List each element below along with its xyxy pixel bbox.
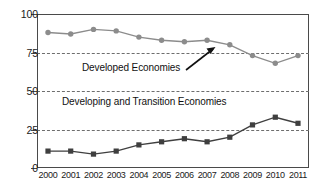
series-developed-economies [45,27,300,66]
data-point-2002 [91,27,96,32]
data-point-2004 [136,142,141,147]
data-point-2011 [295,121,300,126]
data-point-2007 [205,139,210,144]
data-point-2009 [250,122,255,127]
data-point-2001 [68,31,73,36]
data-point-2000 [45,149,50,154]
data-point-2004 [136,34,141,39]
data-point-2005 [159,38,164,43]
data-point-2006 [182,39,187,44]
data-point-2003 [114,149,119,154]
series-developing-and-transition-economies [45,115,300,157]
data-point-2005 [159,139,164,144]
data-point-2007 [204,38,209,43]
data-point-2010 [273,115,278,120]
chart-container: 100 75 50 25 0 2000200120022003200420052… [0,0,322,190]
series-line [48,29,298,63]
data-point-2000 [45,30,50,35]
data-point-2003 [114,28,119,33]
data-point-2011 [295,53,300,58]
series-layer [0,0,322,190]
data-point-2009 [250,53,255,58]
data-point-2008 [227,135,232,140]
annotation-developed-economies: Developed Economies [82,62,180,73]
data-point-2002 [91,152,96,157]
annotation-developing-economies: Developing and Transition Economies [62,96,226,107]
series-line [48,117,298,154]
annotation-arrow [186,47,216,70]
data-point-2006 [182,136,187,141]
data-point-2010 [273,61,278,66]
data-point-2008 [227,42,232,47]
data-point-2001 [68,149,73,154]
